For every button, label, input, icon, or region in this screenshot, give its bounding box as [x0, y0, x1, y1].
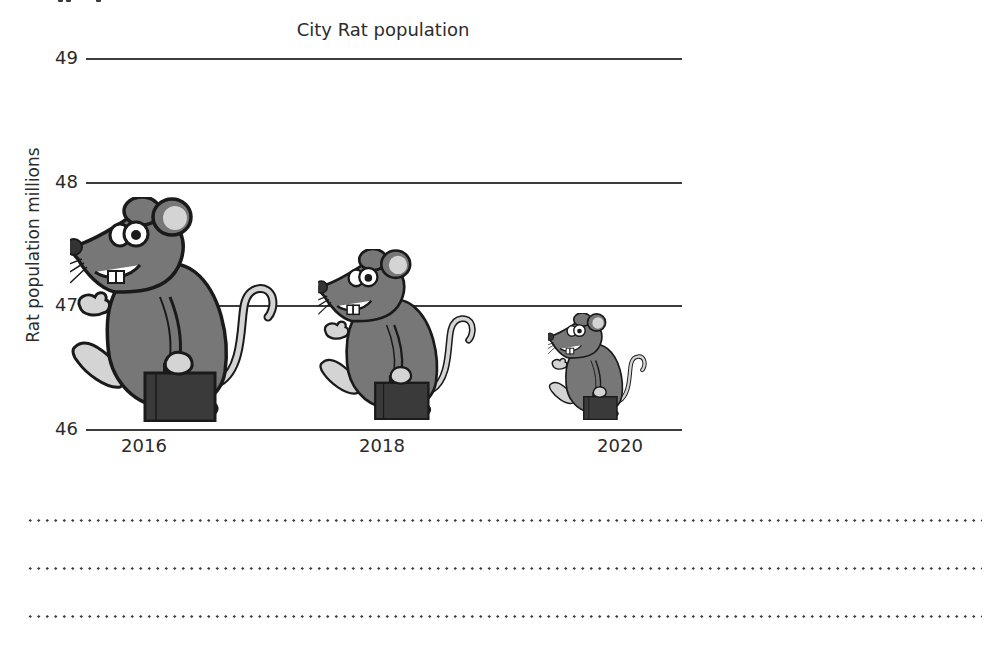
y-tick-49: 49	[40, 49, 78, 67]
chart-title: City Rat population	[240, 19, 526, 40]
answer-line-1[interactable]	[26, 519, 982, 522]
y-tick-48: 48	[40, 173, 78, 191]
rat-icon	[318, 249, 478, 420]
rat-icon	[548, 313, 648, 420]
rat-icon	[70, 197, 280, 422]
rat-pictogram-2016	[70, 197, 280, 422]
rat-pictogram-2020	[548, 313, 648, 420]
gridline-48	[86, 182, 682, 184]
answer-line-3[interactable]	[26, 615, 982, 618]
y-tick-46: 46	[40, 420, 78, 438]
gridline-49	[86, 58, 682, 60]
x-tick-2016: 2016	[104, 437, 184, 455]
rat-pictogram-2018	[318, 249, 478, 420]
x-tick-2018: 2018	[342, 437, 422, 455]
cutoff-heading-fragment	[58, 0, 104, 4]
gridline-46	[86, 429, 682, 431]
answer-line-2[interactable]	[26, 567, 982, 570]
x-tick-2020: 2020	[580, 437, 660, 455]
